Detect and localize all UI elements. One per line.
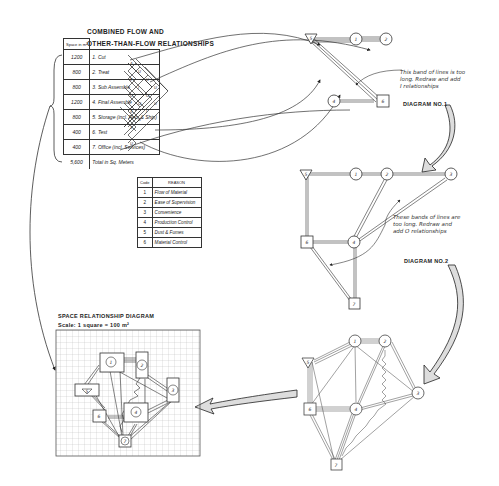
svg-text:I: I <box>138 85 140 90</box>
svg-text:6: 6 <box>98 414 101 419</box>
diagram2-label: DIAGRAM NO.2 <box>404 258 448 264</box>
svg-text:7: 7 <box>353 302 356 307</box>
diagram1-label: DIAGRAM NO.1 <box>403 101 447 107</box>
svg-text:U: U <box>146 77 149 82</box>
svg-text:X: X <box>129 125 133 130</box>
svg-text:1: 1 <box>355 37 358 42</box>
svg-text:6: 6 <box>309 407 312 412</box>
svg-text:4: 4 <box>135 410 138 415</box>
svg-text:4: 4 <box>353 240 356 245</box>
svg-text:1: 1 <box>354 339 357 344</box>
svg-text:2: 2 <box>384 339 387 344</box>
brace-to-space-arrow <box>30 106 55 370</box>
svg-text:O: O <box>146 93 149 98</box>
svg-text:5: 5 <box>310 36 313 41</box>
svg-text:A: A <box>129 61 133 66</box>
flow-arrow-1 <box>422 105 455 172</box>
svg-text:U: U <box>154 101 157 106</box>
svg-text:6: 6 <box>382 99 385 104</box>
svg-text:4: 4 <box>333 99 336 104</box>
diagram-1 <box>305 33 402 107</box>
brace <box>50 55 62 162</box>
svg-text:U: U <box>138 117 141 122</box>
diagram-3 <box>302 335 424 470</box>
diagram-2 <box>300 168 457 309</box>
svg-text:2: 2 <box>385 37 388 42</box>
svg-text:4: 4 <box>355 407 358 412</box>
flow-arrow-2 <box>424 265 463 384</box>
svg-text:7: 7 <box>124 439 127 444</box>
svg-text:U: U <box>154 85 157 90</box>
svg-text:O: O <box>138 101 141 106</box>
svg-text:3: 3 <box>172 388 175 393</box>
svg-text:3: 3 <box>417 391 420 396</box>
svg-text:U: U <box>130 93 133 98</box>
diagram1-note: This band of lines is too long. Redraw a… <box>400 69 465 90</box>
svg-text:1: 1 <box>110 360 113 365</box>
svg-text:A: A <box>129 109 133 114</box>
svg-text:3: 3 <box>450 172 453 177</box>
space-diagram-title: SPACE RELATIONSHIP DIAGRAM <box>58 313 154 319</box>
diagram2-note: These bands of lines are too long. Redra… <box>393 214 460 235</box>
flow-arrow-3 <box>195 390 297 414</box>
svg-text:7: 7 <box>335 463 338 468</box>
svg-text:6: 6 <box>306 240 309 245</box>
svg-text:5: 5 <box>307 360 310 365</box>
svg-text:1: 1 <box>355 172 358 177</box>
svg-text:2: 2 <box>141 363 144 368</box>
svg-text:5: 5 <box>86 389 89 394</box>
svg-text:5: 5 <box>305 172 308 177</box>
svg-text:2: 2 <box>386 172 389 177</box>
svg-text:U: U <box>138 69 141 74</box>
space-diagram-scale: Scale: 1 square = 100 m² <box>58 322 129 328</box>
